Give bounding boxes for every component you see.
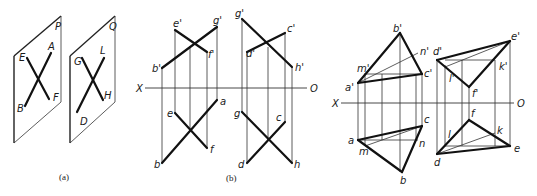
line-b'c' — [400, 33, 422, 74]
label-a': a' — [345, 82, 354, 93]
label-b': b' — [152, 63, 161, 74]
label-f: f — [471, 108, 476, 119]
figure-c: X O b' n' m' c' a' c — [331, 23, 525, 186]
label-a: a — [348, 135, 354, 146]
axis-o-label-b: O — [310, 83, 318, 94]
label-D: D — [80, 116, 88, 127]
triangle-def-top: f l k d e — [434, 108, 520, 168]
label-m: m — [359, 146, 369, 157]
line-d'e' — [437, 41, 510, 60]
label-f': f' — [472, 88, 478, 99]
label-c': c' — [287, 23, 295, 34]
label-d: d — [434, 157, 441, 168]
triangle-abc-top: c a n m b — [348, 114, 430, 186]
plane-q: Q G L D H — [70, 16, 117, 143]
label-d': d' — [433, 46, 442, 57]
label-a: a — [220, 96, 226, 107]
label-g'-r: g' — [235, 8, 244, 19]
line-df — [437, 120, 469, 154]
label-G: G — [74, 56, 82, 67]
plane-p: P E A B F — [14, 16, 62, 143]
label-n: n — [419, 138, 425, 149]
label-e: e — [167, 108, 173, 119]
label-d': d' — [246, 48, 255, 59]
label-Q: Q — [109, 21, 117, 32]
label-k: k — [497, 125, 504, 136]
triangle-def-front: d' e' k' l' f' — [433, 31, 520, 154]
projection-diagram: P E A B F Q G L D H (a) X O — [0, 0, 537, 196]
label-m': m' — [357, 63, 370, 74]
axis-x-label-b: X — [135, 83, 144, 94]
label-A: A — [47, 41, 55, 52]
caption-a: (a) — [59, 172, 69, 182]
label-b': b' — [393, 23, 402, 34]
label-e': e' — [173, 18, 182, 29]
label-L: L — [100, 45, 106, 56]
line-gh — [242, 112, 292, 163]
label-e: e — [514, 143, 520, 154]
line-dc — [247, 122, 285, 163]
label-c: c — [424, 114, 430, 125]
figure-a: P E A B F Q G L D H (a) — [14, 16, 117, 182]
label-b: b — [154, 159, 160, 170]
line-e'f' — [175, 30, 207, 52]
label-F: F — [53, 92, 59, 103]
label-n': n' — [420, 46, 429, 57]
label-g': g' — [213, 15, 222, 26]
label-e': e' — [511, 31, 520, 42]
label-c: c — [276, 112, 282, 123]
label-H: H — [104, 90, 112, 101]
line-b'g' — [162, 27, 217, 68]
line-ac — [358, 126, 422, 140]
label-k': k' — [499, 61, 508, 72]
label-b: b — [400, 175, 406, 186]
caption-b: (b) — [226, 173, 237, 183]
label-c': c' — [424, 68, 432, 79]
plane-q-bottom-edge — [70, 102, 115, 143]
label-P: P — [55, 21, 62, 32]
label-g: g — [234, 108, 240, 119]
label-h: h — [294, 159, 300, 170]
line-fe — [469, 120, 510, 146]
label-l': l' — [449, 73, 455, 84]
figure-b: X O e' g' b' f' e a b f — [135, 8, 318, 183]
label-l: l — [448, 129, 451, 140]
label-B: B — [17, 103, 24, 114]
line-a'b' — [358, 33, 400, 83]
label-E: E — [19, 52, 26, 63]
axis-o-label-c: O — [517, 98, 525, 109]
label-h': h' — [295, 62, 304, 73]
axis-x-label-c: X — [331, 98, 340, 109]
label-f': f' — [208, 49, 214, 60]
line-cb — [402, 126, 422, 172]
label-d: d — [238, 159, 245, 170]
label-f: f — [210, 144, 215, 155]
